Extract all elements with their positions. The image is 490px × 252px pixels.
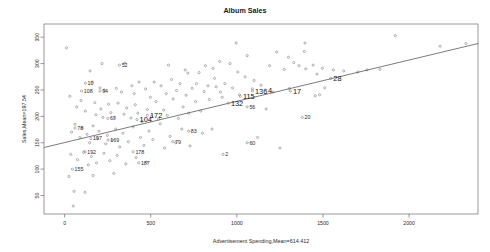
point-label: 104 [140,115,152,124]
point-label: 132 [231,99,243,108]
point-label: 52 [122,62,128,68]
point-label: 108 [84,88,93,94]
point-label: 78 [77,125,83,131]
x-tick-label: 1500 [317,220,329,226]
point-label: 187 [141,160,150,166]
x-axis-label: Advertisement Spending,Mean=614.412 [213,238,309,244]
y-tick-label: 50 [34,193,40,199]
point-label: 94 [102,88,108,94]
point-label: 197 [93,135,102,141]
x-tick-label: 1000 [231,220,243,226]
y-tick-label: 100 [34,165,40,174]
point-label: 192 [87,149,96,155]
point-label: 10 [88,80,94,86]
point-label: 20 [305,114,311,120]
x-tick-label: 500 [146,220,155,226]
point-label: 67 [110,115,116,121]
point-label: 17 [293,87,301,96]
y-tick-label: 300 [34,59,40,68]
point-label: 2 [225,151,228,157]
y-tick-label: 200 [34,112,40,121]
point-label: 83 [191,128,197,134]
point-label: 115 [243,92,255,101]
point-label: 28 [333,74,341,83]
point-label: 4 [268,86,272,95]
point-label: 155 [75,166,84,172]
point-label: 79 [175,139,181,145]
chart-title: Album Sales [223,6,266,15]
y-tick-label: 150 [34,138,40,147]
point-label: 60 [249,140,255,146]
scatter-plot-figure: Album Sales 0500100015002000 35030025020… [0,0,490,252]
point-label: 178 [135,149,144,155]
y-axis-label: Sales,Mean=197.54 [21,95,27,143]
point-label: 169 [110,137,119,143]
x-tick-label: 2000 [403,220,415,226]
y-tick-label: 350 [34,33,40,42]
y-tick-label: 250 [34,86,40,95]
point-label: 56 [249,104,255,110]
x-tick-label: 0 [63,220,66,226]
